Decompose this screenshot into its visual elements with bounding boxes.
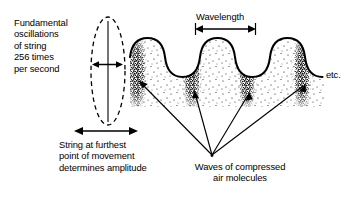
label-fundamental-oscillations: Fundamental oscillations of string 256 t… (14, 17, 68, 74)
compression-band-4 (290, 34, 316, 109)
pointer-convergence-point (211, 154, 214, 157)
label-string-amplitude: String at furthest point of movement det… (59, 139, 147, 173)
label-etc: etc. (326, 69, 341, 80)
vibrating-string-envelope (91, 17, 125, 125)
sound-wave-diagram: Fundamental oscillations of string 256 t… (0, 0, 358, 197)
compression-band-1 (125, 34, 151, 109)
amplitude-measure-arrow (74, 127, 138, 135)
wavelength-measure-arrow (195, 23, 256, 35)
label-wavelength: Wavelength (196, 11, 244, 22)
label-waves-of-compressed-air: Waves of compressed air molecules (178, 161, 302, 184)
